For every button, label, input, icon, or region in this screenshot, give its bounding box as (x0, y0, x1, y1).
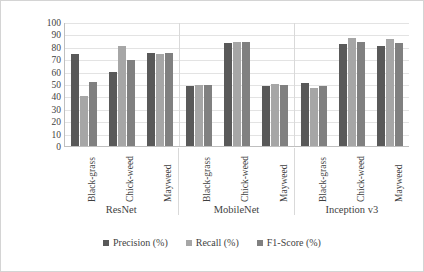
bar (339, 44, 347, 146)
category-label: Black-grass (87, 157, 97, 202)
category-label: Mayweed (163, 165, 173, 202)
bar (242, 42, 250, 146)
y-axis-tick-label: 60 (52, 68, 62, 78)
category-label: Black-grass (202, 157, 212, 202)
model-group (65, 23, 180, 146)
category-bar-cluster (333, 23, 371, 146)
category-label-cell: Mayweed (371, 148, 409, 204)
y-axis-tick-label: 100 (47, 18, 61, 28)
bar (147, 53, 155, 146)
category-label-group: Black-grassChick-weedMayweed (295, 148, 409, 204)
bar (357, 42, 365, 146)
bar (386, 39, 394, 146)
legend-label: Recall (%) (196, 237, 239, 248)
legend-item[interactable]: Recall (%) (186, 237, 239, 248)
bar (301, 83, 309, 146)
category-bar-cluster (218, 23, 256, 146)
bar (271, 84, 279, 146)
model-group (180, 23, 295, 146)
bar (156, 54, 164, 146)
category-label-cell: Mayweed (140, 148, 178, 204)
category-label-cell: Chick-weed (217, 148, 255, 204)
legend-item[interactable]: Precision (%) (103, 237, 168, 248)
bar (80, 96, 88, 146)
bar (224, 43, 232, 146)
bar (118, 46, 126, 146)
category-label: Chick-weed (125, 156, 135, 202)
category-label-cell: Black-grass (179, 148, 217, 204)
bar (186, 86, 194, 146)
model-group-label: MobileNet (179, 204, 294, 215)
legend-swatch-icon (103, 240, 109, 246)
legend-label: Precision (%) (113, 237, 168, 248)
legend-swatch-icon (186, 240, 192, 246)
category-label-cell: Mayweed (256, 148, 294, 204)
legend-swatch-icon (257, 240, 263, 246)
category-label: Chick-weed (240, 156, 250, 202)
bar (233, 42, 241, 146)
chart-container: Percentage (%) 1009080706050403020100 Bl… (0, 0, 424, 272)
y-axis-tick-label: 20 (52, 117, 62, 127)
model-group-label: ResNet (64, 204, 179, 215)
bar (89, 82, 97, 146)
plot-area: 1009080706050403020100 (64, 23, 409, 147)
category-label-cell: Black-grass (295, 148, 333, 204)
model-group-label: Inception v3 (295, 204, 409, 215)
y-axis-tick-label: 40 (52, 92, 62, 102)
bar (204, 85, 212, 146)
y-axis-tick-label: 0 (56, 142, 61, 152)
category-label-cell: Chick-weed (333, 148, 371, 204)
category-bar-cluster (141, 23, 179, 146)
y-axis-tick-label: 50 (52, 80, 62, 90)
model-group (295, 23, 409, 146)
bar (165, 53, 173, 146)
legend-label: F1-Score (%) (267, 237, 321, 248)
category-label: Mayweed (394, 165, 404, 202)
bar (195, 85, 203, 146)
legend-item[interactable]: F1-Score (%) (257, 237, 321, 248)
bar (109, 72, 117, 146)
bar (262, 86, 270, 146)
category-bar-cluster (103, 23, 141, 146)
bar (319, 86, 327, 146)
category-label: Chick-weed (356, 156, 366, 202)
y-axis-tick-label: 70 (52, 55, 62, 65)
category-bar-cluster (371, 23, 409, 146)
y-axis-tick-label: 30 (52, 105, 62, 115)
bar (310, 88, 318, 146)
category-label: Mayweed (279, 165, 289, 202)
category-label-group: Black-grassChick-weedMayweed (64, 148, 179, 204)
category-labels: Black-grassChick-weedMayweedBlack-grassC… (64, 148, 409, 204)
category-label-group: Black-grassChick-weedMayweed (179, 148, 294, 204)
category-bar-cluster (295, 23, 333, 146)
bar (280, 85, 288, 146)
y-axis-tick-label: 90 (52, 30, 62, 40)
chart-legend: Precision (%)Recall (%)F1-Score (%) (1, 237, 423, 248)
bar (377, 46, 385, 146)
bar (395, 43, 403, 146)
category-label: Black-grass (318, 157, 328, 202)
category-label-cell: Black-grass (64, 148, 102, 204)
category-bar-cluster (256, 23, 294, 146)
bar (348, 38, 356, 146)
bar (71, 54, 79, 146)
y-axis-tick-label: 10 (52, 130, 62, 140)
bar-groups (65, 23, 409, 146)
category-bar-cluster (180, 23, 218, 146)
y-axis-tick-label: 80 (52, 43, 62, 53)
bar (127, 60, 135, 146)
category-label-cell: Chick-weed (102, 148, 140, 204)
model-labels: ResNetMobileNetInception v3 (64, 204, 409, 215)
category-bar-cluster (65, 23, 103, 146)
